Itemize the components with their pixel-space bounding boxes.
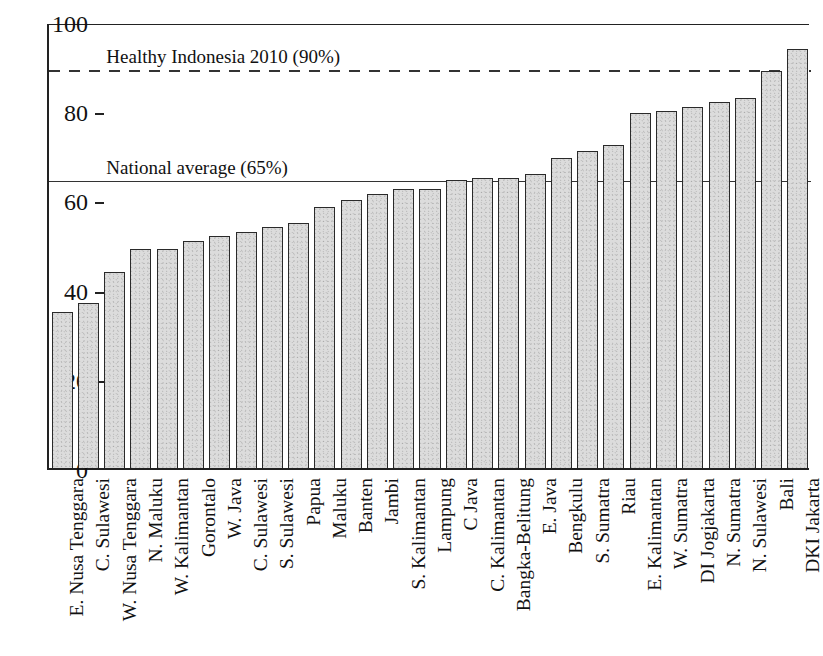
bar (183, 241, 204, 468)
bar (236, 232, 257, 468)
bar (130, 249, 151, 468)
x-axis-category-label-text: W. Kalimantan (172, 478, 192, 595)
x-axis-category-label-text: Riau (619, 478, 639, 515)
x-axis-category-label: N. Maluku (146, 478, 166, 563)
x-axis-category-label-text: DKI Jakarta (803, 478, 823, 573)
x-axis-category-label: Bali (777, 478, 797, 511)
x-axis-category-label: Papua (304, 478, 324, 526)
plot-area: 020406080100 Healthy Indonesia 2010 (90%… (47, 24, 809, 470)
x-axis-category-label-text: W. Sumatra (671, 478, 691, 569)
bar (656, 111, 677, 468)
x-axis-category-label: Bangka-Belitung (514, 478, 534, 611)
x-axis-category-label: Gorontalo (199, 478, 219, 557)
x-axis-category-label-text: Maluku (330, 478, 350, 539)
bar (262, 227, 283, 468)
x-axis-category-label: N. Sulawesi (750, 478, 770, 572)
x-axis-category-label: Bengkulu (566, 478, 586, 554)
bar (446, 180, 467, 468)
x-axis-category-label: C. Sulawesi (93, 478, 113, 571)
x-axis-category-label: W. Java (225, 478, 245, 539)
x-axis-category-label: Banten (356, 478, 376, 533)
x-axis-category-label: Riau (619, 478, 639, 515)
x-axis-category-label-text: E. Kalimantan (645, 478, 665, 591)
x-axis-category-label-text: S. Kalimantan (409, 478, 429, 590)
bar (498, 178, 519, 468)
x-axis-category-label: W. Sumatra (671, 478, 691, 569)
x-axis-category-label-text: Bali (777, 478, 797, 511)
x-axis-category-label-text: N. Sumatra (724, 478, 744, 567)
x-axis-category-label: W. Kalimantan (172, 478, 192, 595)
x-axis-category-label-text: C. Sulawesi (93, 478, 113, 571)
x-axis-category-label-text: Papua (304, 478, 324, 526)
bar (630, 113, 651, 468)
x-axis-category-label-text: Jambi (382, 478, 402, 525)
x-axis-category-label-text: E. Java (540, 478, 560, 534)
x-axis-category-label: DI Jogjakarta (698, 478, 718, 584)
x-axis-category-label: E. Java (540, 478, 560, 534)
x-axis-category-label: S. Sumatra (593, 478, 613, 564)
x-axis-category-label: S. Kalimantan (409, 478, 429, 590)
bar-series (49, 22, 811, 468)
x-axis-category-label: E. Kalimantan (645, 478, 665, 591)
x-axis-category-label: W. Nusa Tenggara (120, 478, 140, 621)
bar (419, 189, 440, 468)
x-axis-category-label-text: S. Sumatra (593, 478, 613, 564)
x-axis-category-label-text: Gorontalo (199, 478, 219, 557)
x-axis-category-label-text: N. Sulawesi (750, 478, 770, 572)
x-axis-category-label: E. Nusa Tenggara (67, 478, 87, 617)
bar (472, 178, 493, 468)
x-axis-category-label: DKI Jakarta (803, 478, 823, 573)
bar (209, 236, 230, 468)
x-axis-category-label-text: Bengkulu (566, 478, 586, 554)
bar (367, 194, 388, 468)
x-axis-category-label: C Java (461, 478, 481, 531)
bar (157, 249, 178, 468)
bar (288, 223, 309, 468)
x-axis-category-label: C. Sulawesi (251, 478, 271, 571)
x-axis-category-label-text: C Java (461, 478, 481, 531)
x-axis-category-label-text: Bangka-Belitung (514, 478, 534, 611)
x-axis-category-label-text: E. Nusa Tenggara (67, 478, 87, 617)
bar (393, 189, 414, 468)
x-axis-category-labels: E. Nusa TenggaraC. SulawesiW. Nusa Tengg… (47, 472, 809, 656)
bar (341, 200, 362, 468)
x-axis-category-label-text: N. Maluku (146, 478, 166, 563)
bar (577, 151, 598, 468)
x-axis-category-label-text: C. Sulawesi (251, 478, 271, 571)
x-axis-category-label: N. Sumatra (724, 478, 744, 567)
x-axis-category-label: Jambi (382, 478, 402, 525)
bar (603, 145, 624, 468)
bar (78, 303, 99, 468)
x-axis-category-label-text: W. Java (225, 478, 245, 539)
bar (761, 71, 782, 468)
x-axis-category-label: Maluku (330, 478, 350, 539)
x-axis-category-label-text: S. Sulawesi (277, 478, 297, 569)
bar (682, 107, 703, 468)
bar (551, 158, 572, 468)
bar (104, 272, 125, 468)
bar (525, 174, 546, 468)
bar (787, 49, 808, 468)
x-axis-category-label-text: W. Nusa Tenggara (120, 478, 140, 621)
bar (709, 102, 730, 468)
x-axis-category-label: S. Sulawesi (277, 478, 297, 569)
bar (735, 98, 756, 468)
x-axis-category-label-text: C. Kalimantan (488, 478, 508, 592)
bar (52, 312, 73, 468)
x-axis-category-label: C. Kalimantan (488, 478, 508, 592)
x-axis-category-label: Lampung (435, 478, 455, 553)
bar (314, 207, 335, 468)
x-axis-category-label-text: Lampung (435, 478, 455, 553)
x-axis-category-label-text: Banten (356, 478, 376, 533)
x-axis-category-label-text: DI Jogjakarta (698, 478, 718, 584)
